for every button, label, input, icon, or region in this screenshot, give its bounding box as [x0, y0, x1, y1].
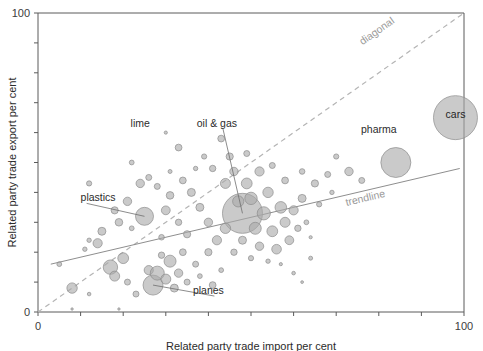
bubble: [231, 249, 237, 255]
bubble: [249, 222, 261, 234]
bubble: [267, 226, 278, 237]
bubble: [146, 174, 152, 180]
annotation-plastics-label: plastics: [81, 191, 116, 203]
bubble: [184, 231, 191, 238]
bubble: [202, 154, 207, 159]
bubble: [275, 202, 287, 214]
annotation-pharma-label: pharma: [361, 123, 397, 135]
bubble: [168, 169, 172, 173]
x-tick-label-max: 100: [455, 320, 473, 332]
bubble: [196, 203, 204, 211]
bubble: [179, 177, 186, 184]
bubble: [209, 165, 215, 171]
bubble: [301, 281, 304, 284]
bubble: [233, 196, 244, 207]
bubble: [115, 219, 123, 227]
annotation-lime-label: lime: [131, 117, 150, 129]
x-tick-label-min: 0: [35, 320, 41, 332]
bubble: [266, 259, 270, 263]
bubble: [123, 197, 131, 205]
bubble: [133, 291, 139, 297]
axis-titles: Related party trade import per centRelat…: [6, 78, 336, 351]
bubble: [248, 256, 253, 261]
bubble: [334, 154, 339, 159]
bubble: [299, 169, 305, 175]
bubble: [304, 220, 309, 225]
bubble: [175, 144, 182, 151]
bubble: [325, 171, 331, 177]
bubble: [129, 160, 134, 165]
bubble: [166, 192, 174, 200]
bubble: [309, 236, 312, 239]
bubble: [158, 252, 164, 258]
bubble: [161, 274, 171, 284]
bubble: [279, 263, 282, 266]
bubble: [359, 177, 365, 183]
bubble: [241, 178, 252, 189]
y-tick-label-min: 0: [24, 306, 30, 318]
bubble: [311, 180, 318, 187]
reference-label-diagonal: diagonal: [357, 14, 396, 47]
bubble: [83, 247, 87, 251]
bubble: [345, 167, 353, 175]
bubble: [282, 177, 289, 184]
bubble: [174, 269, 182, 277]
bubble: [280, 217, 290, 227]
bubble: [244, 151, 250, 157]
annotation-planes-label: planes: [193, 284, 224, 296]
annotation-cars-label: cars: [446, 108, 466, 120]
bubble: [204, 218, 212, 226]
bubble: [184, 279, 190, 285]
bubble: [205, 249, 212, 256]
bubble: [124, 279, 130, 285]
bubble-chart-figure: 01000100 diagonaltrendline limeoil & gas…: [0, 0, 483, 351]
bubble: [309, 256, 313, 260]
bubble: [187, 188, 195, 196]
bubble: [218, 135, 225, 142]
bubble: [164, 255, 176, 267]
bubble: [257, 207, 270, 220]
bubble: [230, 167, 238, 175]
bubble: [263, 187, 273, 197]
bubble: [179, 249, 186, 256]
bubble-pharma: [381, 148, 411, 178]
bubble: [87, 238, 91, 242]
bubble: [285, 236, 294, 245]
bubble: [269, 162, 275, 168]
bubble: [93, 239, 102, 248]
bubble: [255, 167, 264, 176]
bubble: [110, 271, 120, 281]
x-axis-title: Related party trade import per cent: [166, 340, 336, 351]
bubble: [175, 219, 181, 225]
bubble: [87, 292, 91, 296]
y-axis-title: Related party trade export per cent: [6, 78, 18, 248]
chart-canvas: 01000100 diagonaltrendline limeoil & gas…: [0, 0, 483, 351]
bubble-lime: [164, 131, 167, 134]
bubble: [159, 234, 165, 240]
bubble: [118, 253, 129, 264]
bubble: [136, 179, 144, 187]
bubble: [57, 262, 62, 267]
annotation-oil-gas-label: oil & gas: [197, 117, 237, 129]
y-tick-label-max: 100: [12, 7, 30, 19]
bubble: [154, 183, 160, 189]
annotations: limeoil & gasplasticsplanespharmacars: [81, 108, 466, 296]
bubble: [317, 202, 322, 207]
bubble: [220, 178, 230, 188]
bubble: [161, 206, 170, 215]
bubble: [219, 268, 224, 273]
bubble: [197, 274, 202, 279]
bubble: [193, 166, 197, 170]
bubble: [87, 181, 92, 186]
bubble: [220, 223, 230, 233]
data-bubbles: [57, 96, 478, 311]
bubble: [118, 308, 120, 310]
bubble: [289, 206, 298, 215]
bubble: [292, 271, 296, 275]
annotation-plastics-leader: [87, 203, 145, 216]
bubble: [238, 236, 246, 244]
bubble: [212, 236, 221, 245]
bubble: [295, 225, 301, 231]
bubble: [71, 308, 73, 310]
bubble: [330, 190, 334, 194]
